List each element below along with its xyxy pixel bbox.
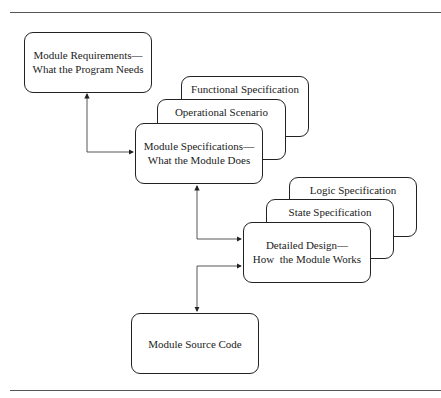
- connector-arrows: [0, 0, 441, 398]
